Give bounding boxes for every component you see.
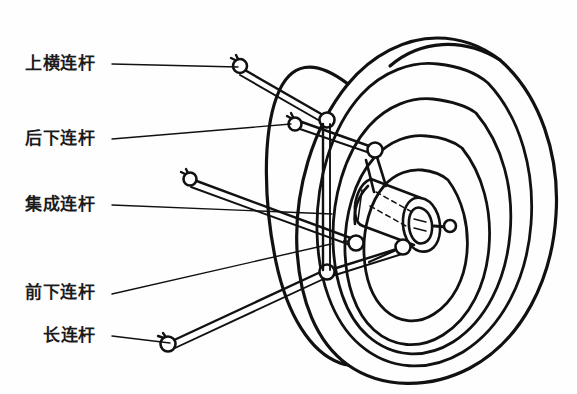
link-upper-transverse	[231, 55, 335, 128]
callout-label-integrated-link: 集成连杆	[25, 196, 95, 213]
hub-stub-arm	[434, 220, 456, 232]
leader-upper-transverse-link	[112, 64, 238, 67]
suspension-wheel-diagram: .ln{fill:none;stroke:#111111;stroke-line…	[0, 0, 577, 394]
leader-rear-lower-link	[112, 124, 291, 139]
callout-label-front-lower-link: 前下连杆	[25, 284, 95, 301]
callout-label-long-link: 长连杆	[43, 327, 96, 344]
vertical-strut	[323, 124, 330, 270]
link-front-lower	[330, 240, 411, 277]
callout-label-upper-transverse-link: 上横连杆	[25, 55, 95, 72]
wheel-rim	[317, 63, 532, 365]
callout-label-rear-lower-link: 后下连杆	[25, 130, 95, 147]
